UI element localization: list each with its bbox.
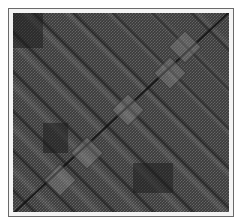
dark-patch [43, 123, 68, 153]
recurrence-matrix [13, 13, 229, 212]
plot-frame [8, 8, 234, 217]
dark-patch [13, 13, 43, 48]
dark-patch [133, 163, 173, 193]
